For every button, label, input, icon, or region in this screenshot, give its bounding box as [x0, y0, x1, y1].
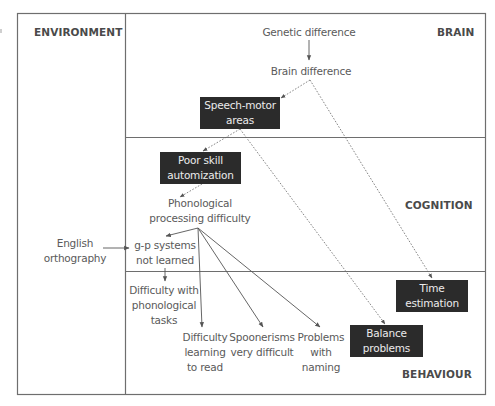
node-line: Phonological	[145, 196, 255, 211]
zone-behaviour-label: BEHAVIOUR	[402, 368, 472, 380]
node-line: Poor skill	[178, 153, 223, 168]
node-time-estimation: Time estimation	[396, 280, 468, 312]
causal-model-diagram: ENVIRONMENT BRAIN COGNITION BEHAVIOUR Ge…	[0, 0, 495, 406]
zone-brain-label: BRAIN	[437, 26, 474, 38]
node-line: not learned	[130, 253, 200, 268]
node-speech-motor-areas: Speech-motor areas	[200, 97, 280, 129]
arrow-phon-to-spoonerisms	[198, 228, 263, 327]
node-line: Time	[420, 281, 445, 296]
node-brain-difference: Brain difference	[266, 64, 356, 79]
node-learning-to-read: Difficulty learning to read	[180, 330, 230, 375]
node-line: learning	[180, 345, 230, 360]
node-spoonerisms: Spoonerisms very difficult	[229, 330, 295, 360]
node-line: Balance	[366, 326, 406, 341]
node-line: with	[296, 345, 346, 360]
node-line: areas	[226, 113, 254, 128]
node-line: to read	[180, 360, 230, 375]
node-line: g-p systems	[130, 238, 200, 253]
node-line: Difficulty	[180, 330, 230, 345]
node-line: automization	[167, 168, 233, 183]
node-line: tasks	[127, 313, 201, 328]
arrow-phon-to-gp	[166, 228, 198, 236]
node-english-orthography: English orthography	[40, 236, 110, 266]
node-line: Difficulty with	[127, 283, 201, 298]
node-phonological-processing: Phonological processing difficulty	[145, 196, 255, 226]
arrow-speech-to-balance	[240, 129, 385, 324]
node-poor-skill-automization: Poor skill automization	[160, 152, 241, 184]
node-line: Problems	[296, 330, 346, 345]
node-line: phonological	[127, 298, 201, 313]
node-line: Speech-motor	[204, 98, 276, 113]
node-line: very difficult	[229, 345, 295, 360]
node-balance-problems: Balance problems	[350, 325, 423, 357]
arrow-brain-to-speech	[281, 80, 310, 98]
arrow-speech-to-poorskill	[203, 129, 240, 151]
node-phonological-tasks: Difficulty with phonological tasks	[127, 283, 201, 328]
zone-environment-label: ENVIRONMENT	[34, 26, 122, 38]
node-gp-systems: g-p systems not learned	[130, 238, 200, 268]
node-line: Spoonerisms	[229, 330, 295, 345]
arrow-phon-to-naming	[198, 228, 320, 327]
node-genetic-difference: Genetic difference	[259, 25, 359, 40]
zone-cognition-label: COGNITION	[405, 199, 473, 211]
node-line: naming	[296, 360, 346, 375]
node-line: processing difficulty	[145, 211, 255, 226]
node-line: estimation	[405, 296, 459, 311]
node-line: English	[40, 236, 110, 251]
node-line: problems	[363, 341, 410, 356]
node-problems-naming: Problems with naming	[296, 330, 346, 375]
node-line: orthography	[40, 251, 110, 266]
